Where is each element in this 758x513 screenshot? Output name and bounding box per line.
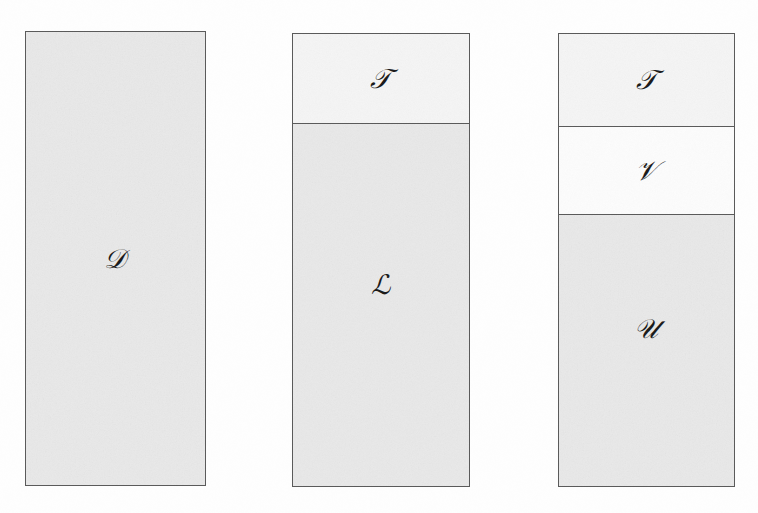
symbol-script-v: 𝒱 [635,157,658,184]
segment-train-t-1: 𝒯 [293,34,469,123]
segment-dataset-d: 𝒟 [26,32,205,485]
segment-train-t-2: 𝒯 [559,34,734,126]
symbol-script-d: 𝒟 [104,245,127,272]
symbol-script-u: 𝒰 [634,315,659,342]
train-validate-use-block: 𝒯 𝒱 𝒰 [558,33,735,487]
train-learn-block: 𝒯 ℒ [292,33,470,487]
paper-grain [559,214,734,486]
segment-use-u: 𝒰 [559,214,734,486]
symbol-script-l: ℒ [371,271,391,298]
segment-learn-l: ℒ [293,123,469,486]
figure-canvas: 𝒟 𝒯 ℒ [0,0,758,513]
paper-grain [293,123,469,486]
segment-validate-v: 𝒱 [559,126,734,215]
symbol-script-t: 𝒯 [370,65,392,92]
symbol-script-t: 𝒯 [636,66,658,93]
dataset-block: 𝒟 [25,31,206,486]
